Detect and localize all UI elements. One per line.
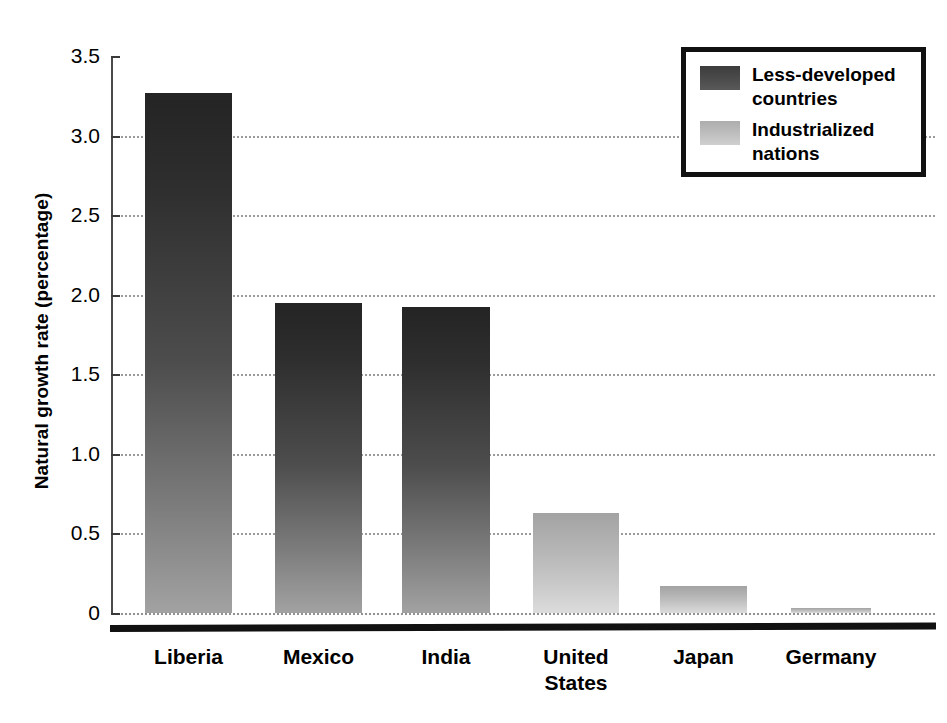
- gridline: [112, 374, 935, 376]
- gridline: [112, 215, 935, 217]
- gridline: [112, 454, 935, 456]
- bar: [533, 513, 619, 613]
- legend-item-industrialized: Industrialized nations: [700, 118, 874, 166]
- y-tick-label: 0.5: [40, 522, 100, 543]
- gridline: [112, 295, 935, 297]
- y-tick-mark: [111, 56, 120, 58]
- y-tick-label: 3.0: [40, 125, 100, 146]
- y-tick-mark: [111, 613, 120, 615]
- bar: [275, 303, 362, 613]
- x-category-label: Germany: [751, 644, 911, 670]
- legend-label-less-developed: Less-developed countries: [752, 63, 896, 111]
- bar: [402, 307, 490, 613]
- y-tick-label: 2.5: [40, 204, 100, 225]
- y-tick-mark: [111, 295, 120, 297]
- gridline: [112, 613, 935, 615]
- x-axis-line: [110, 622, 936, 632]
- y-tick-mark: [111, 215, 120, 217]
- legend-swatch-industrialized: [700, 121, 740, 145]
- y-tick-label: 3.5: [40, 45, 100, 66]
- bar: [660, 586, 747, 613]
- legend-label-industrialized: Industrialized nations: [752, 118, 874, 166]
- legend-item-less-developed: Less-developed countries: [700, 63, 896, 111]
- y-axis-title: Natural growth rate (percentage): [31, 131, 53, 551]
- y-tick-label: 1.5: [40, 363, 100, 384]
- bar: [145, 93, 232, 613]
- y-tick-mark: [111, 533, 120, 535]
- y-tick-mark: [111, 454, 120, 456]
- bar: [791, 608, 871, 613]
- y-tick-mark: [111, 374, 120, 376]
- legend-swatch-less-developed: [700, 66, 740, 90]
- y-tick-label: 0: [40, 602, 100, 623]
- bar-chart: Natural growth rate (percentage) 00.51.0…: [0, 0, 947, 723]
- legend-box: Less-developed countries Industrialized …: [681, 47, 926, 177]
- y-tick-mark: [111, 136, 120, 138]
- y-tick-label: 1.0: [40, 443, 100, 464]
- y-tick-label: 2.0: [40, 284, 100, 305]
- gridline: [112, 533, 935, 535]
